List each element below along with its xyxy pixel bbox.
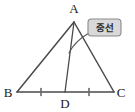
vertex-label-D: D (60, 96, 69, 111)
geometry-figure: A B C D 중선 (0, 0, 135, 112)
vertex-label-A: A (69, 1, 79, 16)
callout-median: 중선 (88, 19, 121, 36)
vertex-label-B: B (4, 85, 13, 100)
triangle-median-svg: A B C D 중선 (0, 0, 135, 112)
side-AB (17, 22, 74, 92)
callout-label: 중선 (96, 22, 114, 33)
vertex-label-C: C (117, 85, 126, 100)
